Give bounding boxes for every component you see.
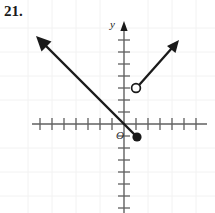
figure-container: 21. [0, 0, 215, 213]
closed-point-marker [132, 132, 141, 141]
decreasing-branch-ray [36, 36, 137, 137]
open-point-marker [132, 84, 141, 93]
graph-plot: y O [0, 0, 215, 213]
increasing-branch-ray [140, 40, 179, 84]
y-axis-label: y [109, 18, 115, 30]
y-axis [118, 21, 130, 213]
origin-label: O [116, 129, 124, 141]
